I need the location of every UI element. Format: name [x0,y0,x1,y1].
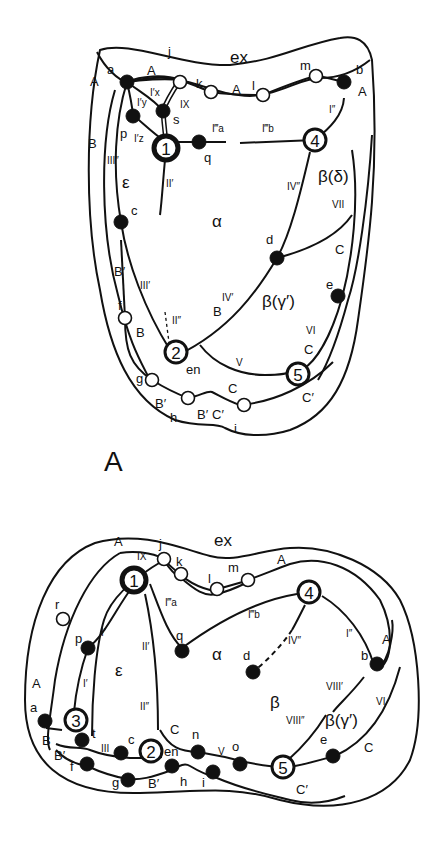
node-i-b [206,765,220,779]
svg-text:I″: I″ [346,628,353,639]
svg-text:i: i [234,421,237,436]
svg-text:c: c [131,203,138,218]
svg-text:I‴a: I‴a [212,123,224,134]
svg-text:h: h [170,410,177,425]
svg-text:5: 5 [278,759,287,778]
node-d [270,251,284,265]
svg-text:C′: C′ [296,782,308,797]
svg-text:I‴b: I‴b [262,123,274,134]
svg-text:I′: I′ [101,627,106,638]
svg-text:I‴a: I‴a [165,597,177,608]
svg-text:II′: II′ [142,641,150,652]
svg-text:k: k [176,554,183,569]
node-r-b [57,613,70,626]
svg-text:3: 3 [71,712,80,731]
svg-text:g: g [136,371,143,386]
svg-text:IV″: IV″ [287,181,300,192]
region-alpha-a: α [212,212,222,231]
node-t-b [75,733,89,747]
svg-text:I′x: I′x [150,87,160,98]
node-b [337,75,351,89]
svg-text:1: 1 [129,572,138,591]
region-beta-b: β [270,693,280,712]
svg-text:C′: C′ [302,390,314,405]
svg-text:2: 2 [146,743,155,762]
svg-text:C: C [304,342,313,357]
region-ex-b: ex [214,531,232,550]
diagram-b: 1 4 3 2 5 ex ε α β β(γ′) r j k l m p q a… [25,531,419,806]
svg-text:l: l [208,571,211,586]
svg-text:C: C [170,722,179,737]
svg-text:VII: VII [332,199,344,210]
svg-text:I′: I′ [83,678,88,689]
svg-text:III: III [101,743,109,754]
svg-text:f: f [70,759,74,774]
svg-text:c: c [128,732,135,747]
node-c-b [114,746,128,760]
svg-text:g: g [112,775,119,790]
node-l-b [211,583,224,596]
svg-text:t: t [92,726,96,741]
svg-text:r: r [55,597,60,612]
svg-text:A: A [358,84,367,99]
svg-text:VIII′: VIII′ [326,681,343,692]
svg-text:A: A [232,82,241,97]
svg-text:m: m [228,560,239,575]
region-epsilon-a: ε [122,173,130,192]
node-e-b [326,749,340,763]
svg-text:A: A [90,74,99,89]
node-j [174,76,187,89]
svg-text:b: b [356,62,363,77]
svg-text:a: a [107,62,115,77]
node-q [192,135,206,149]
svg-text:l: l [252,78,255,93]
node-k-b [175,568,188,581]
node-p [126,109,140,123]
svg-text:VI: VI [306,325,315,336]
svg-text:IV′: IV′ [222,292,233,303]
node-d-b [246,665,260,679]
svg-text:V: V [236,357,243,368]
svg-text:B: B [42,733,51,748]
svg-text:B′: B′ [54,748,66,763]
node-b-b [370,657,384,671]
node-o-b [233,757,247,771]
diagram-a: 1 4 2 5 ex ε α β(δ) β(γ′) a b j k l m p … [88,37,375,477]
svg-text:d: d [266,232,273,247]
region-ex-a: ex [230,48,248,67]
svg-text:m: m [300,58,311,73]
svg-text:B: B [136,325,145,340]
svg-text:j: j [158,536,162,551]
svg-text:b: b [361,648,368,663]
region-beta-delta-a: β(δ) [318,167,349,186]
node-g-b [121,773,135,787]
svg-text:II″: II″ [172,315,182,326]
svg-text:II″: II″ [140,701,150,712]
svg-text:q: q [204,150,211,165]
svg-text:e: e [326,277,333,292]
svg-text:s: s [173,112,180,127]
svg-text:k: k [196,76,203,91]
node-a [120,75,134,89]
node-f-b [80,757,94,771]
node-k [205,86,218,99]
svg-text:i: i [202,775,205,790]
svg-text:p: p [75,631,82,646]
svg-text:B: B [88,136,97,151]
svg-text:I′z: I′z [134,133,144,144]
svg-text:B′: B′ [197,407,209,422]
svg-text:B′: B′ [114,264,126,279]
svg-text:p: p [120,126,127,141]
svg-text:e: e [320,732,327,747]
node-j-b [158,553,171,566]
svg-text:a: a [30,700,38,715]
svg-text:IX: IX [137,551,147,562]
svg-text:A: A [32,676,41,691]
svg-text:I‴b: I‴b [248,609,260,620]
node-c [114,215,128,229]
node-m-b [242,574,255,587]
svg-text:B′: B′ [155,396,167,411]
svg-text:B: B [213,304,222,319]
node-s [156,104,170,118]
region-alpha-b: α [212,645,222,664]
